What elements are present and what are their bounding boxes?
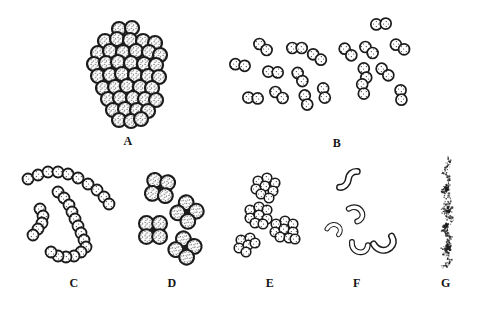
panel-f-curved-rods: [327, 170, 396, 254]
bacteria-drawing-canvas: [0, 0, 477, 310]
panel-g-stippled-filament: [440, 156, 454, 268]
panel-a-cocci-cluster: [87, 21, 167, 128]
panel-label-b: B: [333, 136, 342, 151]
panel-label-a: A: [123, 134, 132, 149]
panel-d-tetrads: [139, 172, 207, 268]
panel-label-f: F: [353, 276, 361, 291]
panel-e-packet-clusters: [234, 173, 300, 257]
panel-c-cocci-chains: [23, 167, 115, 263]
panel-b-paired-cocci: [230, 18, 410, 110]
micrograph-figure: A B C D E F G: [0, 0, 477, 310]
panel-label-e: E: [266, 276, 275, 291]
panel-label-c: C: [69, 276, 78, 291]
panel-label-g: G: [441, 276, 451, 291]
panel-label-d: D: [167, 276, 176, 291]
